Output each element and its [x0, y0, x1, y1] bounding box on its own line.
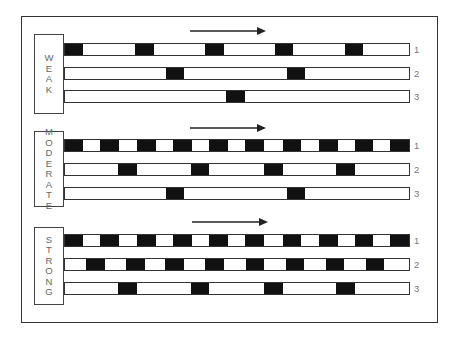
pulse-block	[319, 140, 338, 151]
label-letter: E	[46, 201, 52, 212]
pulse-block	[64, 44, 83, 55]
pulse-block	[287, 188, 305, 199]
row-number: 1	[414, 234, 419, 247]
pulse-block	[118, 283, 137, 294]
pulse-block	[86, 259, 105, 270]
label-letter: M	[45, 127, 53, 138]
row-number: 3	[414, 282, 419, 295]
direction-arrow-icon	[192, 217, 268, 227]
pulse-block	[326, 259, 344, 270]
pulse-bar-moderate-2	[64, 163, 410, 176]
pulse-block	[336, 164, 355, 175]
pulse-block	[283, 235, 301, 246]
pulse-block	[126, 259, 145, 270]
pulse-block	[64, 235, 83, 246]
pulse-block	[366, 259, 384, 270]
pulse-block	[226, 91, 245, 102]
pulse-block	[286, 259, 304, 270]
pulse-block	[390, 235, 410, 246]
pulse-block	[165, 259, 184, 270]
row-number: 2	[414, 163, 419, 176]
pulse-bar-weak-3	[64, 90, 410, 103]
row-number: 2	[414, 67, 419, 80]
pulse-block	[173, 235, 192, 246]
pulse-block	[264, 283, 283, 294]
label-letter: A	[46, 74, 52, 85]
pulse-block	[205, 44, 224, 55]
pulse-block	[191, 164, 209, 175]
pulse-block	[209, 235, 228, 246]
section-label-weak: WEAK	[34, 34, 64, 114]
pulse-bar-weak-1	[64, 43, 410, 56]
pulse-block	[336, 283, 355, 294]
pulse-block	[173, 140, 192, 151]
section-label-strong: STRONG	[34, 227, 64, 305]
direction-arrow-icon	[190, 123, 266, 133]
pulse-block	[246, 259, 264, 270]
label-letter: G	[45, 287, 52, 298]
pulse-bar-strong-2	[64, 258, 410, 271]
pulse-bar-strong-1	[64, 234, 410, 247]
row-number: 1	[414, 139, 419, 152]
pulse-block	[264, 164, 283, 175]
row-number: 2	[414, 258, 419, 271]
pulse-bar-weak-2	[64, 67, 410, 80]
label-letter: R	[46, 169, 53, 180]
pulse-block	[166, 68, 184, 79]
pulse-block	[100, 235, 119, 246]
label-letter: K	[46, 85, 52, 96]
pulse-block	[245, 235, 264, 246]
pulse-block	[100, 140, 119, 151]
row-number: 3	[414, 187, 419, 200]
pulse-block	[355, 140, 373, 151]
pulse-block	[283, 140, 301, 151]
pulse-block	[355, 235, 373, 246]
pulse-bar-strong-3	[64, 282, 410, 295]
row-number: 1	[414, 43, 419, 56]
pulse-block	[205, 259, 224, 270]
pulse-block	[345, 44, 363, 55]
pulse-bar-moderate-3	[64, 187, 410, 200]
section-label-moderate: MODERATE	[34, 131, 64, 207]
pulse-block	[135, 44, 154, 55]
pulse-block	[209, 140, 228, 151]
pulse-bar-moderate-1	[64, 139, 410, 152]
pulse-block	[275, 44, 293, 55]
direction-arrow-icon	[190, 26, 266, 36]
label-letter: O	[45, 266, 52, 277]
pulse-block	[245, 140, 264, 151]
pulse-block	[118, 164, 137, 175]
pulse-block	[191, 283, 209, 294]
pulse-block	[64, 140, 83, 151]
label-letter: T	[46, 190, 52, 201]
label-letter: T	[46, 245, 52, 256]
pulse-block	[137, 235, 156, 246]
pulse-block	[390, 140, 410, 151]
label-letter: D	[46, 148, 53, 159]
pulse-block	[319, 235, 338, 246]
pulse-block	[287, 68, 305, 79]
label-letter: W	[45, 53, 54, 64]
row-number: 3	[414, 90, 419, 103]
pulse-block	[166, 188, 184, 199]
pulse-block	[137, 140, 156, 151]
